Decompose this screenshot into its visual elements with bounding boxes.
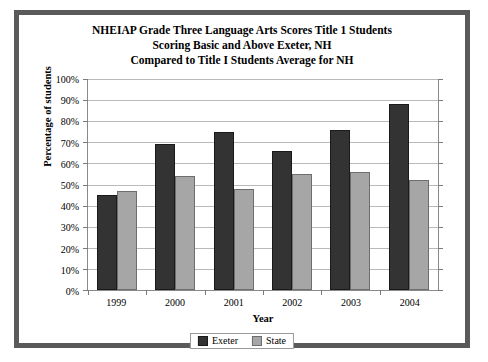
y-axis-tick-right	[438, 121, 443, 122]
y-axis-tick	[83, 79, 88, 80]
bar-group	[321, 79, 379, 290]
y-axis-tick-right	[438, 227, 443, 228]
bar-state-2004	[409, 180, 429, 290]
x-axis-tick-label: 2000	[146, 297, 205, 308]
y-axis-tick-right	[438, 248, 443, 249]
y-axis-tick-label: 30%	[61, 222, 79, 233]
chart-title-line-2: Scoring Basic and Above Exeter, NH	[19, 38, 465, 53]
x-axis-tick-label: 2001	[204, 297, 263, 308]
y-axis-tick	[83, 121, 88, 122]
x-axis-tick-label: 2002	[263, 297, 322, 308]
y-axis-tick-label: 40%	[61, 201, 79, 212]
bar-exeter-2003	[330, 130, 350, 290]
y-axis-tick-label: 60%	[61, 158, 79, 169]
x-axis-labels: 199920002001200220032004	[87, 297, 439, 308]
y-axis-tick-right	[438, 290, 443, 291]
y-axis-tick	[83, 142, 88, 143]
bar-group	[380, 79, 438, 290]
x-axis-tick-label: 1999	[87, 297, 146, 308]
y-axis-tick-right	[438, 206, 443, 207]
chart-legend: Exeter State	[190, 333, 294, 349]
chart-title: NHEIAP Grade Three Language Arts Scores …	[19, 23, 465, 68]
bar-state-2001	[234, 189, 254, 290]
y-axis-tick	[83, 269, 88, 270]
y-axis-tick	[83, 248, 88, 249]
y-axis-tick-right	[438, 79, 443, 80]
bar-groups	[88, 79, 438, 290]
y-axis-tick-right	[438, 142, 443, 143]
y-axis-tick-right	[438, 100, 443, 101]
bar-exeter-1999	[97, 195, 117, 290]
bar-exeter-2002	[272, 151, 292, 290]
bar-state-2003	[350, 172, 370, 290]
y-axis-tick-right	[438, 163, 443, 164]
chart-title-line-3: Compared to Title I Students Average for…	[19, 53, 465, 68]
y-axis-title: Percentage of students	[42, 37, 53, 197]
y-axis-tick-label: 0%	[66, 286, 79, 297]
bar-group	[88, 79, 146, 290]
y-axis-tick-label: 10%	[61, 264, 79, 275]
plot-area-wrapper: 100%90%80%70%60%50%40%30%20%10%0%	[87, 79, 439, 291]
chart-title-line-1: NHEIAP Grade Three Language Arts Scores …	[19, 23, 465, 38]
chart-frame: NHEIAP Grade Three Language Arts Scores …	[14, 10, 470, 348]
y-axis-tick	[83, 206, 88, 207]
x-axis-tick	[205, 290, 206, 295]
x-axis-tick	[88, 290, 89, 295]
y-axis-tick-label: 50%	[61, 180, 79, 191]
y-axis-tick-right	[438, 269, 443, 270]
bar-exeter-2004	[389, 104, 409, 290]
y-axis-tick-right	[438, 185, 443, 186]
bar-exeter-2001	[214, 132, 234, 290]
bar-group	[146, 79, 204, 290]
y-axis-tick	[83, 163, 88, 164]
legend-swatch-state	[252, 336, 262, 346]
bar-group	[205, 79, 263, 290]
bar-exeter-2000	[155, 144, 175, 290]
y-axis-tick-label: 70%	[61, 137, 79, 148]
x-axis-tick	[321, 290, 322, 295]
bar-group	[263, 79, 321, 290]
y-axis-tick	[83, 100, 88, 101]
legend-item-state: State	[252, 335, 286, 346]
x-axis-tick	[380, 290, 381, 295]
legend-item-exeter: Exeter	[198, 335, 238, 346]
x-axis-tick-label: 2003	[322, 297, 381, 308]
y-axis-tick	[83, 185, 88, 186]
x-axis-tick	[263, 290, 264, 295]
legend-label-state: State	[266, 335, 286, 346]
plot-area	[87, 79, 439, 291]
legend-swatch-exeter	[198, 336, 208, 346]
y-axis-tick-label: 20%	[61, 243, 79, 254]
legend-label-exeter: Exeter	[212, 335, 238, 346]
chart-canvas: NHEIAP Grade Three Language Arts Scores …	[19, 15, 465, 343]
x-axis-tick-label: 2004	[380, 297, 439, 308]
y-axis-tick-label: 80%	[61, 116, 79, 127]
y-axis-tick-label: 100%	[56, 74, 79, 85]
y-axis-tick-label: 90%	[61, 95, 79, 106]
x-axis-title: Year	[87, 313, 439, 324]
x-axis-tick	[146, 290, 147, 295]
bar-state-2002	[292, 174, 312, 290]
y-axis-tick	[83, 227, 88, 228]
bar-state-1999	[117, 191, 137, 290]
y-axis-tick	[83, 290, 88, 291]
bar-state-2000	[175, 176, 195, 290]
